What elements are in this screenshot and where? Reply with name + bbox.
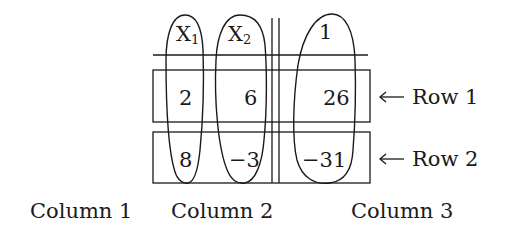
row-2-col-3-value: −31 [302,150,346,171]
header-x2: X2 [228,24,251,46]
column-2-label: Column 2 [171,201,273,222]
row-1-arrow-icon [380,92,404,102]
header-x1-subscript: 1 [191,32,199,47]
column-3-label: Column 3 [351,201,453,222]
row-1-col-3-value: 26 [323,88,350,109]
row-2-arrow-icon [380,154,404,164]
header-x1-base: X [176,22,191,46]
header-constant: 1 [319,22,332,43]
row-2-label: Row 2 [412,149,478,170]
header-x2-subscript: 2 [243,32,251,47]
diagram-lines [0,0,520,225]
row-2-col-2-value: −3 [229,150,260,171]
header-x2-base: X [228,22,243,46]
row-1-label: Row 1 [412,87,478,108]
row-1-col-2-value: 6 [244,88,257,109]
augmented-matrix-diagram: X1 X2 1 2 6 26 8 −3 −31 Row 1 Row 2 Colu… [0,0,520,225]
header-x1: X1 [176,24,199,46]
row-1-col-1-value: 2 [179,88,192,109]
row-2-col-1-value: 8 [179,150,192,171]
column-1-label: Column 1 [30,201,132,222]
